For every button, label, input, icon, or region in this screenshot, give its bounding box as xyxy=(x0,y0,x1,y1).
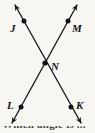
point-dot-l xyxy=(19,105,24,110)
point-label-l: L xyxy=(7,100,14,111)
point-dot-j xyxy=(22,19,27,24)
point-dot-m xyxy=(66,19,71,24)
geometry-figure: J M N L K Which angle is ... xyxy=(0,0,95,133)
cut-off-caption-text: Which angle is ... xyxy=(2,126,86,130)
cut-off-caption-strip: Which angle is ... xyxy=(0,126,95,133)
point-label-k: K xyxy=(76,100,83,111)
point-label-n: N xyxy=(51,61,59,72)
point-label-m: M xyxy=(72,23,82,34)
point-dot-k xyxy=(69,105,74,110)
point-dot-n xyxy=(42,60,47,65)
intersecting-lines-svg xyxy=(0,0,95,133)
point-label-j: J xyxy=(10,23,16,34)
